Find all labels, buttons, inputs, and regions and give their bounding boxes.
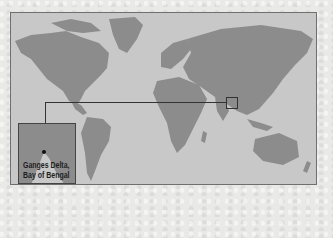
inset-map: Ganges Delta, Bay of Bengal [18, 123, 76, 184]
highlight-region-box [226, 97, 238, 109]
inset-caption: Ganges Delta, Bay of Bengal [23, 160, 69, 180]
inset-caption-line1: Ganges Delta, [23, 160, 69, 170]
world-map-frame: Ganges Delta, Bay of Bengal [10, 12, 317, 185]
connector-line-horizontal [45, 102, 226, 103]
connector-line-vertical [45, 102, 46, 123]
inset-caption-line2: Bay of Bengal [23, 170, 69, 180]
location-dot-icon [42, 150, 46, 154]
